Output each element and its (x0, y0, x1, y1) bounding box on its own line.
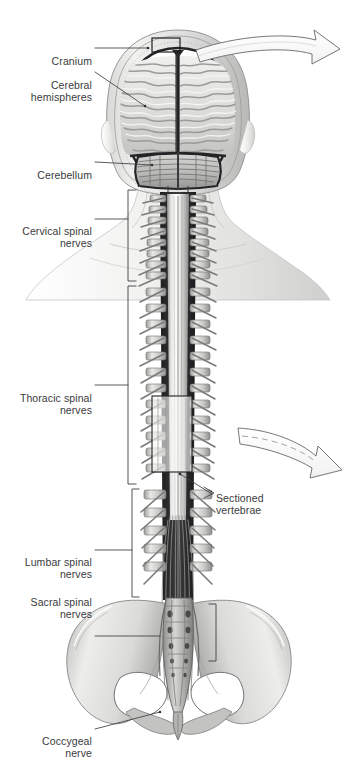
label-sacral-spinal-nerves: Sacral spinal nerves (12, 583, 92, 633)
label-coccygeal-nerve: Coccygeal nerve (14, 722, 92, 772)
label-cervical-spinal-nerves: Cervical spinal nerves (8, 212, 92, 262)
label-sacral-line2: nerves (12, 608, 92, 621)
label-sectioned-vertebrae: Sectioned vertebrae (216, 479, 306, 529)
label-cranium-text: Cranium (52, 55, 92, 67)
label-sectioned-line2: vertebrae (216, 504, 306, 517)
head-coronal-section (101, 30, 254, 198)
label-cerebral-hemispheres: Cerebral hemispheres (8, 66, 92, 116)
label-sectioned-line1: Sectioned (216, 492, 264, 504)
anatomical-figure: Cranium Cerebral hemispheres Cerebellum … (0, 0, 357, 775)
label-thoracic-line1: Thoracic spinal (20, 392, 92, 404)
label-cervical-line2: nerves (8, 237, 92, 250)
label-cerebellum: Cerebellum (12, 156, 92, 181)
magnify-arrow-middle (238, 428, 342, 478)
label-cranium: Cranium (16, 42, 92, 67)
label-cerebellum-text: Cerebellum (37, 169, 92, 181)
label-lumbar-line2: nerves (8, 568, 92, 581)
bracket-lumbar (132, 489, 139, 597)
label-cerebral-hemispheres-line1: Cerebral (51, 79, 92, 91)
label-coccygeal-line2: nerve (14, 747, 92, 760)
label-thoracic-spinal-nerves: Thoracic spinal nerves (6, 379, 92, 429)
label-cervical-line1: Cervical spinal (22, 225, 92, 237)
label-coccygeal-line1: Coccygeal (42, 735, 92, 747)
pelvis (67, 598, 291, 740)
bracket-thoracic (128, 286, 136, 484)
label-cerebral-hemispheres-line2: hemispheres (8, 91, 92, 104)
label-lumbar-line1: Lumbar spinal (25, 556, 92, 568)
label-thoracic-line2: nerves (6, 404, 92, 417)
label-sacral-line1: Sacral spinal (31, 596, 92, 608)
